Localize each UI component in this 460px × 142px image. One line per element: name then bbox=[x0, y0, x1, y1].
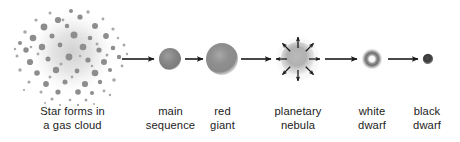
stage-label-line1: Star forms in bbox=[0, 105, 145, 119]
stage-label-planetary-nebula: planetary nebula bbox=[252, 105, 344, 132]
stage-label-gas-cloud: Star forms in a gas cloud bbox=[0, 105, 145, 132]
stage-label-line2: giant bbox=[190, 119, 255, 133]
stage-label-red-giant: red giant bbox=[190, 105, 255, 132]
stage-label-line1: red bbox=[190, 105, 255, 119]
stage-label-black-dwarf: black dwarf bbox=[394, 105, 460, 132]
stage-label-line1: planetary bbox=[252, 105, 344, 119]
stage-label-line2: nebula bbox=[252, 119, 344, 133]
gas-cloud-icon bbox=[14, 9, 128, 106]
black-dwarf-icon bbox=[423, 54, 433, 64]
main-sequence-star-icon bbox=[159, 48, 181, 70]
stage-label-line2: a gas cloud bbox=[0, 119, 145, 133]
stellar-evolution-figure: Star forms in a gas cloud main sequence … bbox=[0, 0, 460, 142]
planetary-nebula-icon bbox=[274, 35, 322, 83]
white-dwarf-icon bbox=[361, 48, 383, 70]
red-giant-star-icon bbox=[206, 43, 238, 75]
stage-label-line2: dwarf bbox=[394, 119, 460, 133]
stage-label-line1: black bbox=[394, 105, 460, 119]
